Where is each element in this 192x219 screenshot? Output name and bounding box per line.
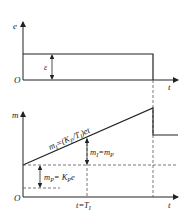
bottom-origin-label: O: [14, 193, 21, 203]
ti-label: t=TI: [76, 200, 92, 211]
bottom-y-label: m: [12, 110, 19, 120]
pi-controller-diagram: e t O ε m t O mI=(KP/TI)et mI=mP mP= KPe…: [0, 0, 192, 219]
step-signal: [23, 54, 153, 80]
mp-label: mP= KPe: [44, 172, 75, 183]
top-origin-label: O: [14, 75, 21, 85]
top-x-label: t: [168, 82, 171, 92]
bottom-x-label: t: [168, 200, 171, 210]
ramp-label: mI=(KP/TI)et: [47, 125, 92, 153]
top-y-label: e: [13, 21, 17, 31]
mi-equals-mp-label: mI=mP: [90, 147, 114, 158]
epsilon-label: ε: [44, 63, 48, 72]
